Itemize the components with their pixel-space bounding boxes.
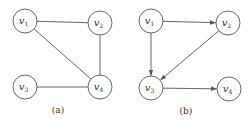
figure-a-caption: (a) [52,105,64,115]
figure-b-edge-v3-v4 [163,88,217,89]
captions-layer: (a) (b) [52,105,193,116]
figure-b-edge-v1-v2 [163,21,216,22]
figure-b-caption: (b) [180,106,193,116]
figure-b-edge-v2-v3 [161,31,219,80]
figure-a-node-v3: v3 [13,75,37,99]
figure-b-node-v3: v3 [139,76,163,100]
graph-canvas: v1v2v3v4v1v2v3v4 (a) (b) [0,0,251,126]
figure-b-node-v4: v4 [217,77,241,101]
figure-a-edge-v1-v2 [37,21,88,22]
figure-a-node-v2: v2 [88,11,112,35]
figure-a-node-v4: v4 [88,75,112,99]
edges-layer [34,21,219,89]
figure-b-node-v2: v2 [216,11,240,35]
figure-a-node-v1: v1 [13,9,37,33]
figure-a-edge-v1-v4 [34,29,91,79]
figure-b-node-v1: v1 [139,9,163,33]
